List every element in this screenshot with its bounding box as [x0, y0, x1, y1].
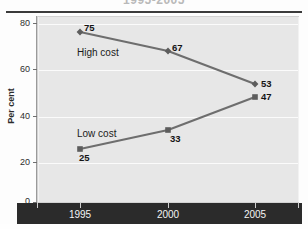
y-tick-mark-80 — [33, 23, 37, 24]
x-tick-mark-2000 — [168, 203, 169, 208]
value-label-high-1995: 75 — [84, 23, 95, 33]
series-label-high-cost: High cost — [77, 47, 119, 58]
y-tick-label-20: 20 — [6, 158, 30, 167]
value-label-high-2005: 53 — [261, 79, 272, 89]
value-label-low-2000: 33 — [170, 134, 181, 144]
value-label-high-2000: 67 — [172, 43, 183, 53]
y-axis-title: Per cent — [6, 76, 16, 136]
x-tick-mark-1995 — [80, 203, 81, 208]
chart-title: 1995-2005 — [0, 0, 308, 6]
header-rule — [6, 11, 302, 13]
bottom-margin — [0, 224, 308, 229]
value-label-low-1995: 25 — [79, 153, 90, 163]
y-axis-line — [36, 16, 37, 204]
chart-figure: 1995-2005 80 60 40 20 0 Per cent 1995 20… — [0, 0, 308, 229]
x-tick-label-1995: 1995 — [58, 209, 102, 220]
x-tick-mark-end — [298, 203, 299, 208]
gridline-20 — [38, 163, 298, 164]
plot-left-edge — [38, 17, 39, 202]
plot-area — [37, 16, 299, 203]
plot-right-edge — [298, 17, 299, 202]
gridline-60 — [38, 70, 298, 71]
y-tick-mark-40 — [33, 116, 37, 117]
x-tick-mark-2005 — [255, 203, 256, 208]
x-tick-label-2000: 2000 — [146, 209, 190, 220]
x-tick-mark-origin — [37, 203, 38, 208]
series-label-low-cost: Low cost — [77, 128, 116, 139]
y-tick-mark-60 — [33, 69, 37, 70]
gridline-80 — [38, 24, 298, 25]
y-tick-label-60: 60 — [6, 65, 30, 74]
x-tick-label-2005: 2005 — [233, 209, 277, 220]
y-tick-mark-20 — [33, 162, 37, 163]
value-label-low-2005: 47 — [261, 92, 272, 102]
gridline-40 — [38, 117, 298, 118]
y-tick-label-80: 80 — [6, 19, 30, 28]
